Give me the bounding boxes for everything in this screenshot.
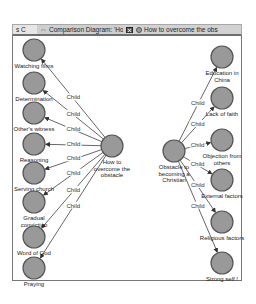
node-circle[interactable] xyxy=(23,257,45,279)
node-circle[interactable] xyxy=(23,133,45,155)
diagram: ChildChildChildChildChildChildChildChild… xyxy=(0,0,256,304)
node-how-to-overcome-the-obstacle[interactable]: How toovercome theobstacle xyxy=(94,135,131,178)
node-circle[interactable] xyxy=(211,252,233,274)
node-label: External factors xyxy=(201,193,243,199)
node-circle[interactable] xyxy=(211,46,233,68)
node-circle[interactable] xyxy=(211,87,233,109)
node-serving-church[interactable]: Serving church xyxy=(14,162,54,192)
node-watching-films[interactable]: Watching films xyxy=(15,39,54,69)
node-circle[interactable] xyxy=(211,169,233,191)
node-obstacle-to-becoming-a-christian[interactable]: Obstacle tobecoming aChristian xyxy=(158,140,190,183)
node-circle[interactable] xyxy=(23,162,45,184)
node-word-of-god[interactable]: Word of God xyxy=(17,226,51,256)
node-label: Other's witness xyxy=(14,126,55,132)
node-label: Lack of faith xyxy=(206,111,238,117)
node-label: Religious factors xyxy=(200,235,244,241)
node-objection-from-others[interactable]: Objection fromothers xyxy=(202,129,241,166)
edges: ChildChildChildChildChildChildChildChild… xyxy=(40,59,217,258)
edge-label: Child xyxy=(191,203,205,209)
node-circle[interactable] xyxy=(23,226,45,248)
node-determination[interactable]: Determination xyxy=(15,72,52,102)
node-label: obstacle xyxy=(101,172,124,178)
node-label: others xyxy=(214,160,231,166)
node-circle[interactable] xyxy=(211,129,233,151)
node-label: overcome the xyxy=(94,166,131,172)
node-circle[interactable] xyxy=(23,72,45,94)
node-education-in-china[interactable]: Education inChina xyxy=(205,46,238,83)
edge-label: Child xyxy=(191,182,205,188)
edge-label: Child xyxy=(67,155,81,161)
node-label: How to xyxy=(103,159,122,165)
node-label: Obstacle to xyxy=(159,164,190,170)
node-other-s-witness[interactable]: Other's witness xyxy=(14,102,55,132)
node-label: becoming a xyxy=(158,171,190,177)
node-label: Praying xyxy=(24,281,44,287)
node-label: China xyxy=(214,77,230,83)
node-circle[interactable] xyxy=(211,211,233,233)
node-circle[interactable] xyxy=(101,135,123,157)
node-label: Strong self ! xyxy=(206,276,238,282)
edge-label: Child xyxy=(67,111,81,117)
node-label: Education in xyxy=(205,70,238,76)
edge-label: Child xyxy=(191,100,205,106)
edge-label: Child xyxy=(66,94,80,100)
edge-label: Child xyxy=(66,187,80,193)
edge-label: Child xyxy=(67,126,81,132)
edge-label: Child xyxy=(67,170,81,176)
node-reasoning[interactable]: Reasoning xyxy=(20,133,49,163)
node-label: Watching films xyxy=(15,63,54,69)
node-label: Gradual xyxy=(23,215,44,221)
edge-label: Child xyxy=(191,121,205,127)
node-circle[interactable] xyxy=(23,102,45,124)
node-circle[interactable] xyxy=(23,39,45,61)
node-label: Christian xyxy=(162,177,186,183)
node-external-factors[interactable]: External factors xyxy=(201,169,243,199)
edge-label: Child xyxy=(191,161,205,167)
edge-label: Child xyxy=(66,203,80,209)
node-circle[interactable] xyxy=(23,191,45,213)
node-strong-self[interactable]: Strong self ! xyxy=(206,252,238,282)
edge-label: Child xyxy=(191,142,205,148)
node-praying[interactable]: Praying xyxy=(23,257,45,287)
node-circle[interactable] xyxy=(163,140,185,162)
node-label: Word of God xyxy=(17,250,51,256)
nodes: How toovercome theobstacleObstacle tobec… xyxy=(14,39,245,287)
node-label: Determination xyxy=(15,96,52,102)
node-gradual-conviction[interactable]: Gradualconviction xyxy=(21,191,48,228)
node-lack-of-faith[interactable]: Lack of faith xyxy=(206,87,238,117)
edge-label: Child xyxy=(67,141,81,147)
node-label: Objection from xyxy=(202,153,241,159)
